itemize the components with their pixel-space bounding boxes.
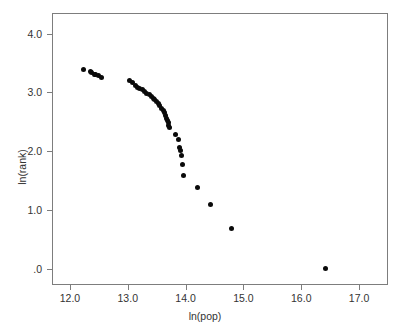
- y-tick-label: .0: [33, 263, 42, 275]
- data-point: [179, 153, 184, 158]
- x-axis-label: ln(pop): [0, 310, 410, 322]
- x-tick-mark: [186, 285, 187, 290]
- y-tick-mark: [47, 269, 52, 270]
- y-tick-label: 3.0: [27, 86, 42, 98]
- x-tick-label: 17.0: [349, 292, 369, 304]
- x-tick-mark: [128, 285, 129, 290]
- plot-data-area: [53, 14, 387, 284]
- data-point: [229, 226, 234, 231]
- data-point: [195, 185, 200, 190]
- data-point: [173, 132, 178, 137]
- y-tick-mark: [47, 92, 52, 93]
- x-tick-label: 15.0: [233, 292, 253, 304]
- data-point: [208, 202, 213, 207]
- data-point: [81, 67, 86, 72]
- y-tick-label: 4.0: [27, 28, 42, 40]
- plot-frame: [52, 13, 388, 285]
- data-point: [99, 75, 104, 80]
- data-point: [323, 266, 328, 271]
- data-point: [167, 125, 172, 130]
- data-point: [176, 137, 181, 142]
- y-tick-label: 2.0: [27, 145, 42, 157]
- x-tick-mark: [301, 285, 302, 290]
- y-axis-label: ln(rank): [16, 149, 28, 185]
- y-tick-mark: [47, 210, 52, 211]
- x-tick-label: 14.0: [175, 292, 195, 304]
- y-tick-mark: [47, 34, 52, 35]
- x-tick-label: 16.0: [291, 292, 311, 304]
- scatter-plot-figure: 12.013.014.015.016.017.0 .01.02.03.04.0 …: [0, 0, 410, 333]
- data-point: [181, 173, 186, 178]
- data-point: [180, 162, 185, 167]
- x-tick-mark: [243, 285, 244, 290]
- y-tick-mark: [47, 151, 52, 152]
- x-tick-mark: [359, 285, 360, 290]
- x-tick-label: 12.0: [60, 292, 80, 304]
- x-tick-mark: [70, 285, 71, 290]
- x-tick-label: 13.0: [118, 292, 138, 304]
- y-tick-label: 1.0: [27, 204, 42, 216]
